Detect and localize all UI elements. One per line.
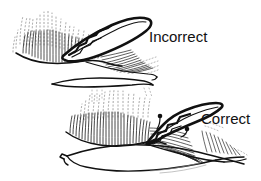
label-correct: Correct: [201, 111, 250, 126]
line-art-figure: [0, 0, 261, 181]
label-incorrect: Incorrect: [149, 29, 207, 44]
illustration-canvas: Incorrect Correct: [0, 0, 261, 181]
